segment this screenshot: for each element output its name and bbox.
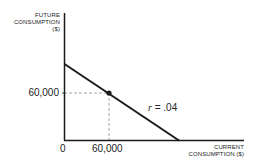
x-axis-title-line-2: CONSUMPTION ($) [189,151,245,158]
x-tick-label-60000: 60,000 [92,143,123,154]
highlight-point [106,90,111,95]
x-axis-title: CURRENT CONSUMPTION ($) [189,144,245,158]
y-tick-label-60000: 60,000 [28,87,59,98]
x-tick-label-0: 0 [60,143,66,154]
y-axis-title-line-2: CONSUMPTION [14,19,60,26]
rate-annotation: r = .04 [148,102,177,113]
x-axis-title-line-1: CURRENT [189,144,245,151]
y-axis-title-line-3: ($) [14,26,60,33]
rate-value: = .04 [155,102,178,113]
y-axis-title: FUTURE CONSUMPTION ($) [14,12,60,33]
y-axis-title-line-1: FUTURE [14,12,60,19]
rate-symbol: r [148,102,152,113]
